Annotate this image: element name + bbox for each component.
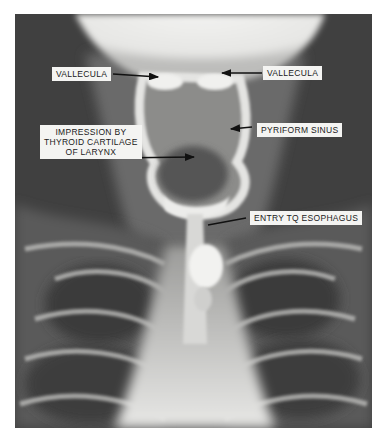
label-entry-esophagus: ENTRY TQ ESOPHAGUS: [250, 211, 362, 225]
label-vallecula-right: VALLECULA: [263, 66, 322, 80]
label-vallecula-left: VALLECULA: [52, 67, 111, 81]
label-pyriform-sinus: PYRIFORM SINUS: [257, 123, 342, 137]
label-impression-thyroid-cartilage: IMPRESSION BY THYROID CARTILAGE OF LARYN…: [40, 125, 142, 159]
